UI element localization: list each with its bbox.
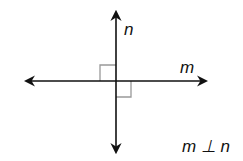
right-angle-mark-lower-right bbox=[116, 81, 131, 97]
perpendicular-statement: m ⊥ n bbox=[182, 137, 230, 156]
label-m: m bbox=[180, 58, 194, 77]
right-angle-mark-upper-left bbox=[100, 65, 116, 81]
perpendicular-lines-diagram: n m m ⊥ n bbox=[0, 0, 243, 161]
label-n: n bbox=[124, 20, 133, 39]
